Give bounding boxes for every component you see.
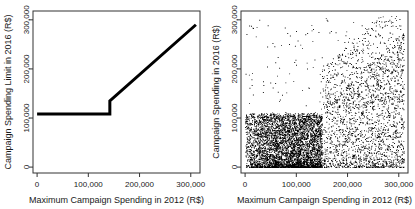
x-tick-label: 100,000 (282, 180, 311, 189)
x-tick-label: 0 (243, 180, 248, 189)
y-tick-label: 0 (230, 164, 239, 169)
y-tick-label: 0 (22, 164, 31, 169)
figure-container: 0100,000200,000300,0000100,000200,000300… (0, 0, 415, 209)
panel-left-spending-limit: 0100,000200,000300,0000100,000200,000300… (0, 0, 207, 209)
y-tick-label: 100,000 (230, 103, 239, 132)
y-tick-label: 300,000 (230, 5, 239, 34)
y-axis-title: Campaign Spending Limit in 2016 (R$) (3, 14, 13, 169)
x-axis-title: Maximum Campaign Spending in 2012 (R$) (29, 195, 204, 205)
right-plot-svg: 0100,000200,000300,0000100,000200,000300… (208, 0, 415, 209)
left-plot-svg: 0100,000200,000300,0000100,000200,000300… (0, 0, 207, 209)
y-tick-label: 100,000 (22, 103, 31, 132)
scatter-points (245, 16, 405, 168)
y-tick-label: 300,000 (22, 5, 31, 34)
panel-right-spending-scatter: 0100,000200,000300,0000100,000200,000300… (208, 0, 415, 209)
x-axis-title: Maximum Campaign Spending in 2012 (R$) (237, 195, 412, 205)
x-tick-label: 200,000 (125, 180, 154, 189)
plot-data-layer (245, 16, 405, 168)
plot-data-layer (37, 25, 196, 114)
plot-frame (33, 11, 200, 173)
x-tick-label: 100,000 (74, 180, 103, 189)
series-line-0 (37, 25, 196, 114)
x-tick-label: 300,000 (176, 180, 205, 189)
y-tick-label: 200,000 (230, 54, 239, 83)
x-tick-label: 0 (35, 180, 40, 189)
y-axis-title: Campaign Spending in 2016 (R$) (211, 25, 221, 159)
x-tick-label: 300,000 (384, 180, 413, 189)
y-tick-label: 200,000 (22, 54, 31, 83)
x-tick-label: 200,000 (333, 180, 362, 189)
